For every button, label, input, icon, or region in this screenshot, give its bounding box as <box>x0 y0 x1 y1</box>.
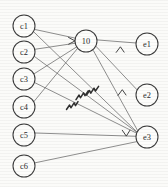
node-c4-label: c4 <box>20 103 29 112</box>
node-c5[interactable]: c5 <box>13 124 35 146</box>
edge-c6-e3 <box>35 142 137 163</box>
node-c1-label: c1 <box>20 22 28 31</box>
node-c6[interactable]: c6 <box>13 155 35 177</box>
node-e3-label: e3 <box>143 133 151 142</box>
arrowhead-to-e3-icon <box>122 130 130 136</box>
node-e3[interactable]: e3 <box>136 126 158 148</box>
node-e1[interactable]: e1 <box>136 33 158 55</box>
node-e2-label: e2 <box>143 91 151 100</box>
node-l0-label: 10 <box>82 37 91 46</box>
node-c5-label: c5 <box>20 131 28 140</box>
edge-c3-e3 <box>35 83 137 133</box>
edge-c4-l0 <box>33 49 77 103</box>
edge-l0-e3 <box>93 51 137 131</box>
arrowhead-to-e2-icon <box>118 90 126 96</box>
node-c3-label: c3 <box>20 75 28 84</box>
edge-c1-l0 <box>35 29 76 38</box>
arrowhead-to-e1-icon <box>116 47 124 53</box>
node-e2[interactable]: e2 <box>136 84 158 106</box>
node-c2[interactable]: c2 <box>13 41 35 63</box>
node-c2-label: c2 <box>20 48 28 57</box>
node-c1[interactable]: c1 <box>13 15 35 37</box>
node-c3[interactable]: c3 <box>13 68 35 90</box>
arrow-layer <box>69 37 131 136</box>
diagram-canvas: c1 c2 c3 c4 c5 c6 10 e1 <box>0 0 168 187</box>
node-l0[interactable]: 10 <box>75 30 97 52</box>
squiggle-mark-3 <box>67 102 79 110</box>
graph-svg: c1 c2 c3 c4 c5 c6 10 e1 <box>0 0 168 187</box>
node-e1-label: e1 <box>143 40 151 49</box>
node-c6-label: c6 <box>20 162 28 171</box>
edge-c5-e3 <box>35 133 136 136</box>
edge-l0-e1 <box>97 40 136 43</box>
node-c4[interactable]: c4 <box>13 96 35 118</box>
